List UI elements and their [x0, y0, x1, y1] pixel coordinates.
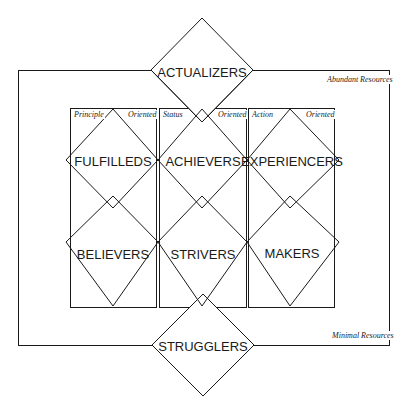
- column-principle-left-label: Principle: [73, 110, 105, 119]
- column-status-left-label: Status: [162, 110, 184, 119]
- column-action-right-label: Oriented: [305, 110, 335, 119]
- column-box-action: [249, 109, 335, 308]
- vals-diagram: Abundant Resources Minimal Resources Pri…: [0, 0, 407, 412]
- segment-actualizers: ACTUALIZERS: [157, 65, 247, 80]
- segment-achievers: ACHIEVERS: [165, 154, 240, 169]
- minimal-resources-label: Minimal Resources: [331, 331, 395, 340]
- segment-experiencers: EXPERIENCERS: [241, 154, 343, 169]
- segment-strivers: STRIVERS: [170, 247, 235, 262]
- column-principle-right-label: Oriented: [127, 110, 157, 119]
- segment-believers: BELIEVERS: [77, 247, 149, 262]
- segment-makers: MAKERS: [265, 246, 320, 261]
- column-status-right-label: Oriented: [217, 110, 247, 119]
- abundant-resources-label: Abundant Resources: [326, 75, 394, 84]
- column-box-status: [160, 109, 247, 308]
- segment-fulfilleds: FULFILLEDS: [74, 154, 151, 169]
- column-action-left-label: Action: [251, 110, 274, 119]
- segment-strugglers: STRUGGLERS: [158, 339, 248, 354]
